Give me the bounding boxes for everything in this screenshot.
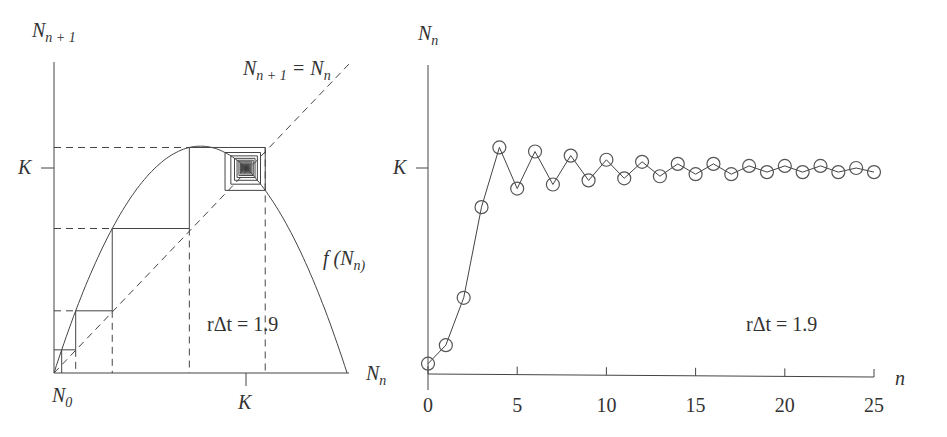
x-tick-label: 15 <box>686 394 706 416</box>
x-tick-label: 25 <box>864 394 884 416</box>
x-tick-label: 20 <box>775 394 795 416</box>
left-k-y-label: K <box>17 156 33 178</box>
left-param-label: rΔt = 1.9 <box>207 313 278 335</box>
data-point-marker <box>868 166 881 179</box>
left-k-x-label: K <box>237 391 253 413</box>
figure-canvas: Nn + 1 K K N0 Nn Nn + 1 = Nn f (Nn) rΔt … <box>0 0 947 437</box>
n0-label: N0 <box>51 384 72 410</box>
x-tick-label: 0 <box>423 394 433 416</box>
right-x-ticks: 0510152025 <box>423 366 884 416</box>
right-x-axis <box>428 374 874 377</box>
time-series-panel: 0510152025 Nn K n rΔt = 1.9 <box>392 22 905 416</box>
time-series-markers <box>422 141 881 370</box>
right-k-y-label: K <box>392 156 408 178</box>
x-tick-label: 5 <box>512 394 522 416</box>
f-label: f (Nn) <box>323 247 366 274</box>
identity-label: Nn + 1 = Nn <box>242 57 331 83</box>
cobweb-panel: Nn + 1 K K N0 Nn Nn + 1 = Nn f (Nn) rΔt … <box>17 19 386 413</box>
identity-line <box>54 64 349 373</box>
left-x-axis-label: Nn <box>365 362 386 388</box>
right-x-axis-label: n <box>895 367 905 389</box>
right-y-axis-label: Nn <box>417 22 438 48</box>
cobweb-path <box>54 147 265 373</box>
left-y-axis-label: Nn + 1 <box>31 19 76 45</box>
x-tick-label: 10 <box>596 394 616 416</box>
right-param-label: rΔt = 1.9 <box>746 313 817 335</box>
f-curve <box>54 146 347 373</box>
